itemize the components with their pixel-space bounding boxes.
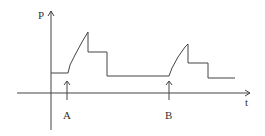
marker-b-label: B — [165, 110, 172, 121]
y-axis-label: P — [38, 10, 44, 21]
x-axis-label: t — [245, 97, 248, 108]
marker-a-label: A — [63, 110, 71, 121]
pressure-curve — [51, 32, 235, 78]
